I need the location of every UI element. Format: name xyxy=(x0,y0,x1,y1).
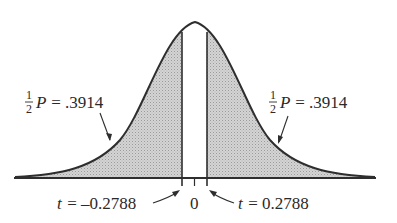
right-cutoff-arrowhead xyxy=(209,190,217,197)
svg-text:2: 2 xyxy=(270,102,276,116)
right-tail-arrowhead xyxy=(278,135,283,144)
svg-text:P: P xyxy=(35,93,46,112)
left-cutoff-label: t = –0.2788 xyxy=(57,194,136,213)
right-cutoff-label: t = 0.2788 xyxy=(238,194,309,213)
t-distribution-diagram: 1 2 P = .3914 1 2 P = .3914 t = –0.2788 … xyxy=(0,0,397,223)
center-label: 0 xyxy=(190,194,199,213)
svg-text:= .3914: = .3914 xyxy=(47,93,104,112)
right-tail-label: 1 2 P = .3914 xyxy=(269,88,348,116)
svg-text:= 0.2788: = 0.2788 xyxy=(244,194,309,213)
svg-text:2: 2 xyxy=(26,102,32,116)
svg-text:1: 1 xyxy=(26,88,32,102)
left-tail-label: 1 2 P = .3914 xyxy=(25,88,104,116)
svg-text:= –0.2788: = –0.2788 xyxy=(63,194,136,213)
left-tail-arrowhead xyxy=(106,133,112,141)
svg-text:P: P xyxy=(279,93,290,112)
svg-text:= .3914: = .3914 xyxy=(291,93,348,112)
svg-text:1: 1 xyxy=(270,88,276,102)
left-cutoff-arrowhead xyxy=(172,190,180,197)
